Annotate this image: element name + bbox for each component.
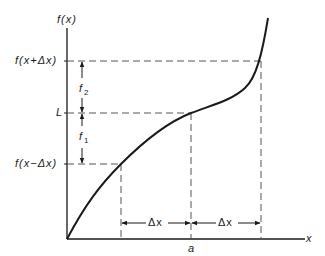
f2-letter: f bbox=[79, 82, 83, 94]
x-axis-label: x bbox=[306, 233, 313, 244]
label-L: L bbox=[56, 107, 63, 118]
label-f-x-minus-dx: f(x−Δx) bbox=[15, 158, 57, 169]
label-f1: f1 bbox=[79, 131, 90, 145]
f1-letter: f bbox=[79, 130, 83, 142]
label-dx-right: Δx bbox=[218, 217, 233, 228]
label-a: a bbox=[188, 243, 195, 254]
f1-subscript: 1 bbox=[84, 136, 89, 145]
y-axis-label: f(x) bbox=[57, 14, 77, 25]
f2-subscript: 2 bbox=[84, 88, 89, 97]
label-dx-left: Δx bbox=[148, 217, 163, 228]
label-f2: f2 bbox=[79, 83, 90, 97]
function-curve bbox=[67, 18, 268, 239]
diagram-canvas: f(x) x f(x+Δx) L f(x−Δx) a f2 f1 Δx Δx bbox=[0, 0, 325, 256]
label-f-x-plus-dx: f(x+Δx) bbox=[15, 55, 57, 66]
